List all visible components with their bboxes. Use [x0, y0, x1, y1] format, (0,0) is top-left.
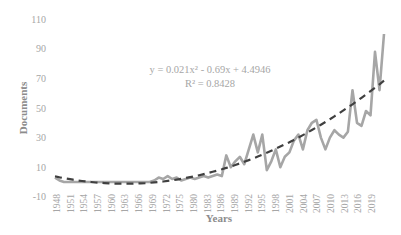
- x-tick-label: 1951: [66, 194, 76, 213]
- r-squared-label: R² = 0.8428: [185, 78, 235, 89]
- x-tick-label: 1998: [271, 194, 281, 213]
- x-tick-label: 1983: [203, 194, 213, 213]
- y-axis-ticks: 1109070503010-10: [31, 14, 46, 203]
- x-tick-label: 1972: [162, 194, 172, 213]
- x-axis-title: Years: [206, 212, 233, 224]
- x-tick-label: 2016: [353, 194, 363, 213]
- x-tick-label: 1975: [175, 194, 185, 213]
- x-tick-label: 2007: [312, 194, 322, 213]
- y-tick-label: 10: [36, 162, 46, 173]
- x-tick-label: 2013: [340, 194, 350, 213]
- x-tick-label: 1969: [148, 194, 158, 213]
- x-tick-label: 1960: [107, 194, 117, 213]
- x-tick-label: 1963: [120, 194, 130, 213]
- x-tick-label: 1995: [257, 194, 267, 213]
- y-axis-title: Documents: [17, 81, 29, 134]
- x-tick-label: 1957: [93, 194, 103, 213]
- x-tick-label: 2001: [285, 194, 295, 213]
- x-tick-label: 1948: [52, 194, 62, 213]
- x-tick-label: 1980: [189, 194, 199, 213]
- x-tick-label: 1986: [216, 194, 226, 213]
- line-chart: 1109070503010-10 19481951195419571960196…: [0, 0, 401, 235]
- x-tick-label: 2004: [299, 194, 309, 213]
- y-tick-label: 110: [31, 14, 46, 25]
- x-tick-label: 1989: [230, 194, 240, 213]
- x-tick-label: 2019: [367, 194, 377, 213]
- y-tick-label: -10: [33, 191, 46, 202]
- y-tick-label: 30: [36, 132, 46, 143]
- y-tick-label: 90: [36, 43, 46, 54]
- x-tick-label: 1954: [79, 194, 89, 213]
- x-tick-label: 1966: [134, 194, 144, 213]
- documents-line: [55, 34, 384, 182]
- trendline-equation: y = 0.021x² - 0.69x + 4.4946: [150, 64, 271, 75]
- x-tick-label: 1992: [244, 194, 254, 213]
- x-tick-label: 2010: [326, 194, 336, 213]
- y-tick-label: 70: [36, 73, 46, 84]
- x-axis-ticks: 1948195119541957196019631966196919721975…: [52, 194, 377, 213]
- y-tick-label: 50: [36, 103, 46, 114]
